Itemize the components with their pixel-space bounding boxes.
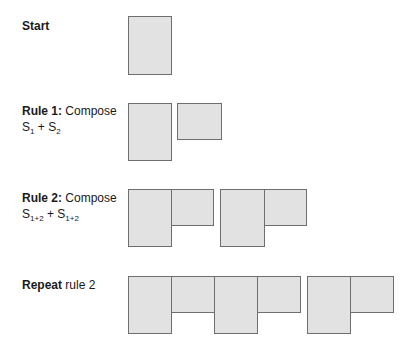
repeat-tall-shape-2 <box>214 276 258 334</box>
label-repeat: Repeat rule 2 <box>22 277 95 293</box>
rule2-tall-shape-0 <box>128 189 172 247</box>
label-rule2: Rule 2: Compose S1+2 + S1+2 <box>22 190 117 222</box>
label-rule2-line1: Rule 2: Compose <box>22 190 117 206</box>
label-repeat-rest: rule 2 <box>62 278 95 292</box>
label-start: Start <box>22 18 49 34</box>
label-rule2-bold: Rule 2: <box>22 191 62 205</box>
label-start-bold: Start <box>22 19 49 33</box>
label-rule1-rest: Compose <box>62 104 117 118</box>
s-a: S <box>22 207 30 221</box>
s-a: S <box>22 120 30 134</box>
repeat-tall-shape-4 <box>307 276 351 334</box>
label-rule1: Rule 1: Compose S1 + S2 <box>22 103 117 135</box>
plus: + <box>34 120 48 134</box>
rule1-square-shape-1 <box>177 103 222 140</box>
repeat-square-shape-3 <box>257 276 301 313</box>
start-tall-shape-0 <box>128 16 172 75</box>
label-rule1-bold: Rule 1: <box>22 104 62 118</box>
s-b-sub: 1+2 <box>65 214 79 223</box>
rule2-square-shape-1 <box>171 189 214 226</box>
s-b-sub: 2 <box>56 127 60 136</box>
s-b: S <box>48 120 56 134</box>
rule2-tall-shape-2 <box>220 189 265 247</box>
repeat-square-shape-5 <box>350 276 394 313</box>
repeat-square-shape-1 <box>171 276 215 313</box>
plus: + <box>44 207 58 221</box>
rule1-tall-shape-0 <box>128 103 172 161</box>
label-rule2-line2: S1+2 + S1+2 <box>22 206 117 222</box>
s-a-sub: 1+2 <box>30 214 44 223</box>
label-rule1-line1: Rule 1: Compose <box>22 103 117 119</box>
label-rule2-rest: Compose <box>62 191 117 205</box>
rule2-square-shape-3 <box>264 189 307 226</box>
repeat-tall-shape-0 <box>128 276 172 334</box>
label-repeat-bold: Repeat <box>22 278 62 292</box>
label-rule1-line2: S1 + S2 <box>22 119 117 135</box>
